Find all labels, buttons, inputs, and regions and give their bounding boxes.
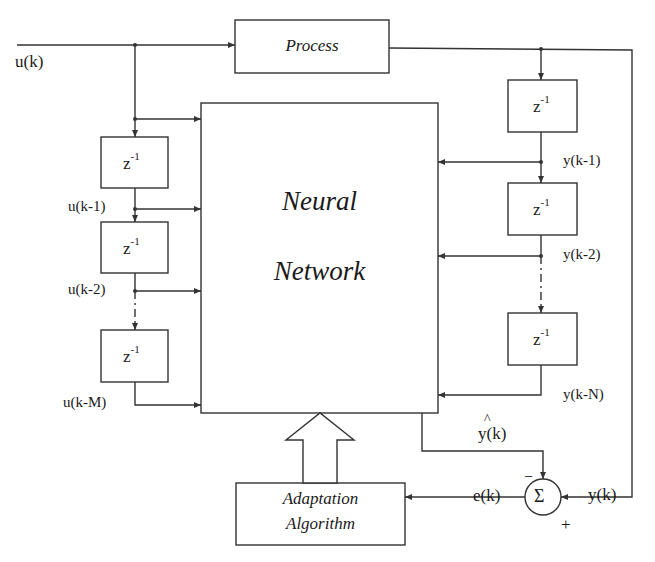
signal-y-k-N: y(k-N) [563, 386, 604, 403]
error-label: e(k) [473, 486, 500, 506]
neural-network-label-line2: Network [201, 256, 438, 287]
signal-u-k-1: u(k-1) [68, 198, 106, 215]
delay-label-y2: z-1 [533, 198, 550, 220]
adaptation-label-line2: Algorithm [236, 514, 405, 534]
input-signal-label: u(k) [15, 52, 43, 72]
plant-output-label: y(k) [588, 485, 616, 505]
delay-label-uM: z-1 [123, 345, 140, 367]
plus-sign: + [561, 515, 571, 535]
neural-network-label-line1: Neural [201, 186, 438, 217]
signal-u-k-2: u(k-2) [68, 281, 106, 298]
delay-label-u1: z-1 [123, 152, 140, 174]
nn-output-label: y(k) [478, 424, 506, 444]
signal-y-k-2: y(k-2) [563, 246, 601, 263]
minus-sign: − [524, 468, 533, 486]
adaptation-label-line1: Adaptation [236, 489, 405, 509]
process-label: Process [235, 36, 389, 56]
block-diagram: Process Neural Network Adaptation Algori… [0, 0, 655, 562]
delay-label-u2: z-1 [123, 237, 140, 259]
adaptation-arrow [286, 413, 354, 483]
signal-y-k-1: y(k-1) [563, 152, 601, 169]
delay-label-y1: z-1 [533, 95, 550, 117]
signal-u-k-M: u(k-M) [63, 394, 106, 411]
sigma-symbol: Σ [534, 486, 544, 507]
delay-label-yN: z-1 [533, 328, 550, 350]
